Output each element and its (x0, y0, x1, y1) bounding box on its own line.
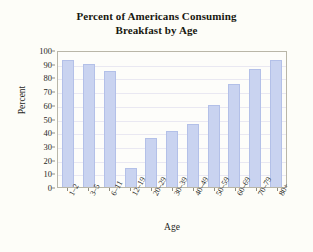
bar-slot (182, 52, 203, 187)
bar (104, 71, 116, 187)
y-axis-tick-labels: 1009080706050403020100 (27, 51, 55, 188)
bar (228, 84, 240, 187)
y-axis-tick-mark (52, 78, 55, 79)
y-axis-tick-mark (52, 105, 55, 106)
bar-slot (265, 52, 286, 187)
bar-slot (224, 52, 245, 187)
chart-title-line-2: Breakfast by Age (0, 24, 313, 38)
bar-slot (203, 52, 224, 187)
bar (62, 60, 74, 187)
bar (249, 69, 261, 187)
bar-slot (120, 52, 141, 187)
bar-chart-figure: Percent of Americans Consuming Breakfast… (0, 0, 313, 252)
y-axis-tick-label: 60 (44, 101, 53, 111)
y-axis-tick-label: 20 (44, 156, 53, 166)
y-axis-tick-label: 70 (44, 87, 53, 97)
bar-slot (141, 52, 162, 187)
y-axis-tick-mark (52, 119, 55, 120)
x-axis-tick-slot: 40–49 (182, 188, 203, 222)
bar (208, 105, 220, 187)
y-axis-tick-mark (52, 92, 55, 93)
x-axis-tick-slot: 30–39 (162, 188, 183, 222)
bar-slot (245, 52, 266, 187)
y-axis-tick-label: 40 (44, 128, 53, 138)
bar (187, 124, 199, 187)
x-axis-tick-labels: 1–23–56–1112–1920–2930–3940–4950–5960–69… (57, 188, 287, 222)
bar-slot (99, 52, 120, 187)
y-axis-tick-mark (52, 160, 55, 161)
bar (270, 60, 282, 187)
x-axis-tick-slot: 20–29 (141, 188, 162, 222)
y-axis-tick-label: 80 (44, 73, 53, 83)
y-axis-tick-mark (52, 64, 55, 65)
y-axis-tick-mark (52, 51, 55, 52)
bar-slot (162, 52, 183, 187)
y-axis-tick-label: 90 (44, 60, 53, 70)
x-axis-tick-slot: 70–79 (245, 188, 266, 222)
x-axis-tick-slot: 50–59 (203, 188, 224, 222)
y-axis-tick-mark (52, 146, 55, 147)
bar (83, 64, 95, 187)
chart-title: Percent of Americans Consuming Breakfast… (0, 10, 313, 37)
x-axis-tick-slot: 1–2 (57, 188, 78, 222)
chart-title-line-1: Percent of Americans Consuming (0, 10, 313, 24)
plot-area (57, 51, 287, 188)
x-axis-tick-slot: 6–11 (99, 188, 120, 222)
x-axis-tick-slot: 12–19 (120, 188, 141, 222)
y-axis-tick-mark (52, 174, 55, 175)
bar-slot (58, 52, 79, 187)
x-axis-tick-slot: 80+ (266, 188, 287, 222)
x-axis-title: Age (57, 222, 287, 232)
bars-layer (58, 52, 286, 187)
x-axis-tick-slot: 3–5 (78, 188, 99, 222)
y-axis-tick-label: 100 (39, 46, 52, 56)
bar-slot (79, 52, 100, 187)
x-axis-tick-slot: 60–69 (224, 188, 245, 222)
y-axis-tick-label: 30 (44, 142, 53, 152)
y-axis-title: Percent (17, 65, 27, 135)
y-axis-tick-label: 10 (44, 169, 53, 179)
y-axis-tick-mark (52, 188, 55, 189)
y-axis-tick-label: 50 (44, 115, 53, 125)
y-axis-tick-mark (52, 133, 55, 134)
